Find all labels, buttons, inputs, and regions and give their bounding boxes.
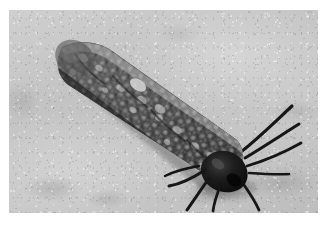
photograph (9, 10, 318, 213)
photo-page (0, 0, 327, 226)
leg-right (249, 173, 289, 174)
larval-case-body (9, 10, 318, 213)
larva (9, 10, 318, 213)
antenna-upper-3 (247, 143, 301, 166)
legs-and-antennae (241, 106, 301, 210)
